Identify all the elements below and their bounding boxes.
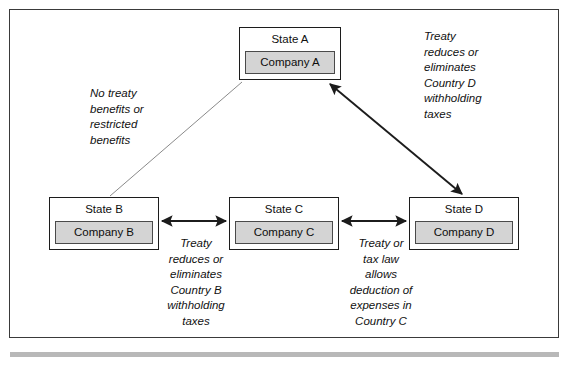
state-label-a: State A <box>245 32 335 47</box>
state-label-c: State C <box>235 202 333 217</box>
state-label-d: State D <box>415 202 513 217</box>
annotation-a-b: No treaty benefits or restricted benefit… <box>90 86 176 148</box>
state-box-a[interactable]: State A Company A <box>239 27 341 80</box>
annotation-b-c: Treaty reduces or eliminates Country B w… <box>161 236 231 329</box>
annotation-c-d: Treaty or tax law allows deduction of ex… <box>341 236 421 329</box>
state-box-c[interactable]: State C Company C <box>229 197 339 250</box>
state-box-b[interactable]: State B Company B <box>49 197 159 250</box>
state-box-d[interactable]: State D Company D <box>409 197 519 250</box>
company-box-c[interactable]: Company C <box>235 221 333 244</box>
company-box-b[interactable]: Company B <box>55 221 153 244</box>
annotation-a-d: Treaty reduces or eliminates Country D w… <box>424 29 520 122</box>
bottom-rule <box>10 352 559 357</box>
diagram-canvas: State A Company A State B Company B Stat… <box>0 0 569 370</box>
state-label-b: State B <box>55 202 153 217</box>
company-box-a[interactable]: Company A <box>245 51 335 74</box>
company-box-d[interactable]: Company D <box>415 221 513 244</box>
